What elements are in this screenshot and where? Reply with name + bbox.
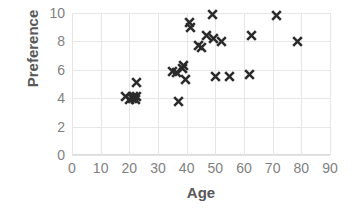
data-point-marker <box>215 35 228 48</box>
y-tick-label: 10 <box>49 6 65 20</box>
y-tick-label: 8 <box>57 34 65 48</box>
x-tick-label: 70 <box>265 161 281 175</box>
y-axis-tick-labels: 0246810 <box>0 13 65 155</box>
data-point-marker <box>130 76 143 89</box>
y-tick-label: 6 <box>57 63 65 77</box>
data-point-marker <box>179 73 192 86</box>
data-point-marker <box>172 95 185 108</box>
x-tick-label: 50 <box>208 161 224 175</box>
data-point-marker <box>195 41 208 54</box>
gridline-vertical <box>72 13 73 155</box>
data-point-marker <box>184 21 197 34</box>
gridline-horizontal <box>72 127 330 128</box>
gridline-vertical <box>158 13 159 155</box>
gridline-horizontal <box>72 70 330 71</box>
x-tick-label: 0 <box>68 161 76 175</box>
gridline-horizontal <box>72 98 330 99</box>
data-point-marker <box>291 35 304 48</box>
x-tick-label: 60 <box>236 161 252 175</box>
scatter-chart: Preference 0246810 0102030405060708090 A… <box>0 0 359 218</box>
y-tick-label: 2 <box>57 120 65 134</box>
x-tick-label: 30 <box>150 161 166 175</box>
data-point-marker <box>270 9 283 22</box>
x-tick-label: 20 <box>122 161 138 175</box>
data-point-marker <box>243 68 256 81</box>
gridline-vertical <box>273 13 274 155</box>
data-point-marker <box>209 70 222 83</box>
data-point-marker <box>206 8 219 21</box>
x-tick-label: 90 <box>322 161 338 175</box>
plot-area <box>72 13 330 155</box>
gridline-vertical <box>101 13 102 155</box>
x-axis-title: Age <box>72 184 330 201</box>
data-point-marker <box>130 90 143 103</box>
gridline-vertical <box>330 13 331 155</box>
data-point-marker <box>245 29 258 42</box>
x-tick-label: 40 <box>179 161 195 175</box>
data-point-marker <box>223 70 236 83</box>
y-tick-label: 0 <box>57 148 65 162</box>
data-point-marker <box>177 59 190 72</box>
x-axis-tick-labels: 0102030405060708090 <box>72 161 330 179</box>
x-tick-label: 80 <box>294 161 310 175</box>
gridline-horizontal <box>72 155 330 156</box>
gridline-horizontal <box>72 13 330 14</box>
y-tick-label: 4 <box>57 91 65 105</box>
x-tick-label: 10 <box>93 161 109 175</box>
